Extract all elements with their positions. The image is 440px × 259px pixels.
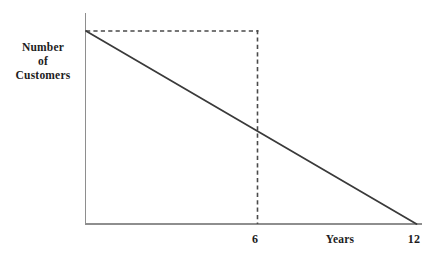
chart-container: Number of Customers 6 Years 12 (0, 0, 440, 259)
y-axis-title-line-2: of (4, 54, 82, 68)
x-axis-tick-label-6: 6 (238, 232, 272, 247)
y-axis-title: Number of Customers (4, 40, 82, 82)
y-axis-title-line-3: Customers (4, 68, 82, 82)
y-axis-title-line-1: Number (4, 40, 82, 54)
customer-decline-line (86, 31, 417, 224)
x-axis-tick-label-12: 12 (396, 232, 432, 247)
chart-plot-area (0, 0, 440, 259)
x-axis-title: Years (310, 233, 370, 245)
